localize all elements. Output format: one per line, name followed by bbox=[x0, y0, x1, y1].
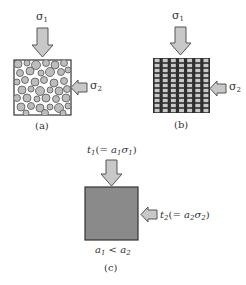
panel-c-top-arrow-icon bbox=[101, 160, 122, 186]
panel-b-side-load-label: σ2 bbox=[229, 80, 241, 94]
panel-b-grid-box bbox=[153, 58, 210, 113]
diagram-canvas bbox=[0, 0, 246, 285]
panel-c-caption: (c) bbox=[104, 262, 117, 273]
panel-b-top-load-label: σ1 bbox=[172, 9, 184, 23]
panel-c-side-arrow-icon bbox=[141, 207, 157, 222]
panel-a-side-load-label: σ2 bbox=[90, 79, 102, 93]
panel-b-top-arrow-icon bbox=[170, 27, 191, 55]
diagram: σ1 σ2 (a) σ1 σ2 (b) t1(= a1σ1) t2(= a2σ2… bbox=[0, 0, 246, 285]
panel-c-side-load-label: t2(= a2σ2) bbox=[160, 209, 210, 222]
panel-c-condition-label: a1 < a2 bbox=[95, 244, 131, 257]
panel-a-caption: (a) bbox=[35, 120, 49, 131]
panel-a-top-load-label: σ1 bbox=[36, 10, 48, 24]
panel-b-side-arrow-icon bbox=[210, 81, 226, 96]
panel-c-solid-box bbox=[85, 187, 138, 240]
panel-a-side-arrow-icon bbox=[71, 80, 87, 95]
panel-a-top-arrow-icon bbox=[32, 28, 53, 57]
panel-a-granular-box bbox=[14, 60, 72, 117]
panel-c-top-load-label: t1(= a1σ1) bbox=[87, 144, 137, 157]
panel-b-caption: (b) bbox=[174, 119, 188, 130]
